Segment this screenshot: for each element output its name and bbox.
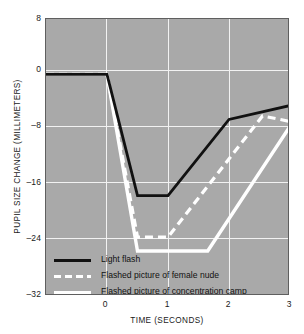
x-tick-0: 0 (92, 299, 118, 309)
plot-area: Light flash Flashed picture of female nu… (45, 18, 289, 295)
y-tick-neg24: –24 (3, 234, 41, 243)
legend-swatch-solid-white-icon (54, 291, 91, 294)
y-tick-0: 0 (3, 65, 41, 74)
y-axis-label: PUPIL SIZE CHANGE (MILLIMETERS) (13, 52, 22, 262)
x-tick-3: 3 (276, 299, 302, 309)
series-line-female-nude (46, 74, 289, 237)
legend-swatch-solid-black-icon (54, 259, 91, 262)
chart-legend: Light flash Flashed picture of female nu… (54, 252, 284, 295)
legend-swatch-dashed-white-icon (54, 275, 91, 278)
legend-item-concentration-camp: Flashed picture of concentration camp (54, 284, 284, 295)
y-tick-neg8: –8 (3, 121, 41, 130)
legend-label-light-flash: Light flash (101, 253, 140, 266)
legend-label-female-nude: Flashed picture of female nude (101, 269, 219, 282)
series-line-light-flash (46, 74, 289, 195)
chart-figure: 8 0 –8 –16 –24 –32 PUPIL SIZE CHANGE (MI… (0, 0, 304, 334)
y-tick-8: 8 (3, 14, 41, 23)
x-tick-2: 2 (215, 299, 241, 309)
x-axis-label: TIME (SECONDS) (45, 316, 289, 325)
y-tick-neg32: –32 (3, 290, 41, 299)
y-tick-neg16: –16 (3, 178, 41, 187)
series-line-concentration-camp (46, 74, 289, 251)
legend-label-concentration-camp: Flashed picture of concentration camp (101, 285, 247, 295)
x-axis-ticks: 0 1 2 3 (0, 299, 304, 313)
legend-item-light-flash: Light flash (54, 252, 284, 268)
x-tick-1: 1 (154, 299, 180, 309)
legend-item-female-nude: Flashed picture of female nude (54, 268, 284, 284)
